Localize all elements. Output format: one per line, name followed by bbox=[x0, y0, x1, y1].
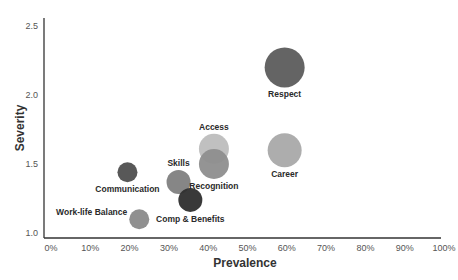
bubble-respect bbox=[265, 47, 305, 87]
bubble-label: Access bbox=[199, 122, 229, 132]
x-tick-label: 30% bbox=[160, 243, 178, 253]
y-tick-label: 1.5 bbox=[25, 159, 38, 169]
x-tick-label: 60% bbox=[278, 243, 296, 253]
bubble-label: Recognition bbox=[189, 181, 238, 191]
bubble-work-life-balance bbox=[129, 209, 149, 229]
x-tick-label: 100% bbox=[432, 243, 455, 253]
x-tick-label: 20% bbox=[121, 243, 139, 253]
x-tick-label: 70% bbox=[317, 243, 335, 253]
bubble-label: Career bbox=[271, 169, 299, 179]
bubble-chart: 0%10%20%30%40%50%60%70%80%90%100% 1.01.5… bbox=[0, 0, 458, 280]
x-tick-label: 80% bbox=[356, 243, 374, 253]
x-tick-labels: 0%10%20%30%40%50%60%70%80%90%100% bbox=[44, 243, 455, 253]
x-tick-label: 40% bbox=[199, 243, 217, 253]
x-tick-label: 50% bbox=[238, 243, 256, 253]
bubble-label: Comp & Benefits bbox=[156, 214, 225, 224]
y-tick-label: 2.0 bbox=[25, 90, 38, 100]
bubble-communication bbox=[117, 162, 137, 182]
y-tick-labels: 1.01.52.02.5 bbox=[25, 21, 38, 238]
x-tick-label: 90% bbox=[396, 243, 414, 253]
x-axis-title: Prevalence bbox=[213, 256, 277, 270]
bubble-layer bbox=[117, 47, 304, 229]
bubble-career bbox=[268, 133, 302, 167]
bubble-label: Skills bbox=[167, 158, 189, 168]
y-tick-label: 1.0 bbox=[25, 228, 38, 238]
y-tick-label: 2.5 bbox=[25, 21, 38, 31]
bubble-label: Communication bbox=[95, 184, 159, 194]
bubble-comp-benefits bbox=[178, 188, 202, 212]
bubble-labels: RespectCareerAccessRecognitionSkillsComp… bbox=[56, 89, 301, 223]
bubble-label: Respect bbox=[268, 89, 301, 99]
y-axis-title: Severity bbox=[13, 104, 27, 151]
bubble-recognition bbox=[199, 149, 229, 179]
x-tick-label: 0% bbox=[44, 243, 57, 253]
x-tick-label: 10% bbox=[81, 243, 99, 253]
bubble-label: Work-life Balance bbox=[56, 207, 127, 217]
